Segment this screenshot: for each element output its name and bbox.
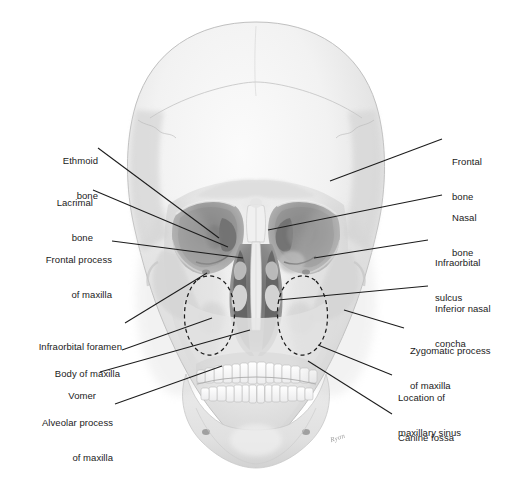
label-line: Infraorbital [435, 257, 511, 269]
label-canine-fossa: Canine fossa [398, 409, 478, 467]
label-line: Ethmoid [18, 155, 98, 167]
label-line: of maxilla [14, 452, 113, 464]
label-line: Location of [398, 392, 496, 404]
label-line: of maxilla [14, 289, 112, 301]
skull-body [128, 22, 385, 468]
label-line: Inferior nasal [435, 303, 513, 315]
label-line: Alveolar process [14, 417, 113, 429]
label-alveolar-process-of-maxilla: Alveolar process of maxilla [14, 394, 113, 486]
label-line: Lacrimal [18, 197, 93, 209]
label-line: Nasal [452, 212, 510, 224]
anatomy-figure: Ethmoid bone Lacrimal bone Frontal proce… [0, 0, 513, 497]
label-line: Canine fossa [398, 432, 478, 444]
label-line: Frontal [452, 156, 512, 168]
label-line: Frontal process [14, 254, 112, 266]
label-frontal-process-of-maxilla: Frontal process of maxilla [14, 231, 112, 323]
label-line: Zygomatic process [410, 345, 510, 357]
